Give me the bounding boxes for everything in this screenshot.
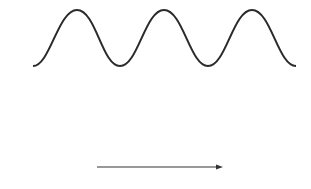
waveform-diagram	[0, 0, 311, 189]
time-arrow-head-icon	[216, 165, 223, 170]
wave-a	[33, 10, 296, 66]
